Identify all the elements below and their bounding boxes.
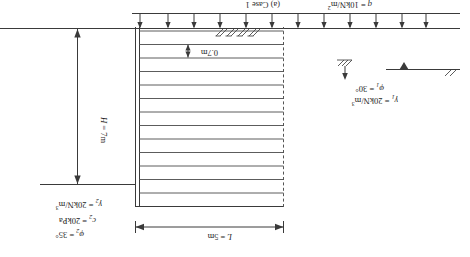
gamma2-subscript: 2	[96, 198, 99, 204]
figure-caption: (a) Case 1	[246, 0, 280, 10]
height-value: 7m	[99, 132, 109, 143]
c2-value: 20kPa	[59, 216, 80, 226]
figure-root: (a) Case 1 L = 5m H = 7m 0.7m q = 10kN/m…	[0, 0, 470, 257]
phi1-degree-symbol: °	[355, 84, 358, 94]
spacing-dimension-arrow-icon	[185, 45, 190, 58]
equals-sign-q: =	[361, 0, 366, 10]
equals-sign-p1: =	[369, 84, 374, 94]
load-arrow-icon	[217, 14, 222, 29]
height-symbol: H	[99, 117, 109, 123]
load-arrow-icon	[373, 14, 378, 29]
equals-sign-g1: =	[385, 96, 390, 106]
phi1-symbol: φ	[379, 84, 384, 94]
load-arrow-icon	[399, 14, 404, 29]
wall-crest-hatch-icon	[337, 60, 352, 80]
gamma2-value: 20kN/m	[59, 200, 87, 210]
load-arrow-icon	[295, 14, 300, 29]
ground-hatch-icon	[215, 29, 265, 37]
load-arrow-icon	[423, 14, 428, 29]
surcharge-symbol: q	[368, 0, 372, 10]
surcharge-value: 10kN/m	[331, 0, 359, 10]
soil-layer-2-cohesion-label: c2 = 20kPa	[59, 214, 96, 225]
height-dimension-label: H = 7m	[100, 117, 109, 143]
phi1-subscript: 1	[376, 82, 379, 88]
gamma2-exponent: 3	[56, 205, 59, 211]
length-value: 5m	[208, 232, 219, 242]
soil-layer-1-friction-label: φ1 = 30°	[355, 82, 384, 93]
spacing-value: 0.7m	[201, 48, 218, 58]
equals-sign-h: =	[99, 125, 109, 130]
c2-subscript: 2	[89, 214, 92, 220]
soil-layer-2-friction-label: φ2 = 35°	[55, 228, 84, 239]
soil-layer-1-unit-weight-label: γ1 = 20kN/m3	[352, 94, 398, 107]
layer2-level-hatch-icon	[410, 70, 460, 77]
gamma1-symbol: γ	[395, 96, 398, 106]
equals-sign-p2: =	[69, 230, 74, 240]
load-arrow-icon	[165, 14, 170, 29]
gamma1-value: 20kN/m	[355, 96, 383, 106]
load-arrow-icon	[269, 14, 274, 29]
gamma2-symbol: γ	[99, 200, 102, 210]
water-table-icon	[386, 62, 422, 70]
gamma1-exponent: 3	[352, 101, 355, 107]
phi2-subscript: 2	[76, 228, 79, 234]
c2-symbol: c	[92, 216, 96, 226]
length-dimension-label: L = 5m	[208, 233, 233, 242]
equals-sign: =	[221, 232, 226, 242]
surcharge-exponent: 2	[328, 5, 331, 11]
length-symbol: L	[227, 232, 232, 242]
phi1-value: 30	[359, 84, 368, 94]
equals-sign-c2: =	[82, 216, 87, 226]
load-arrow-icon	[137, 14, 142, 29]
load-arrow-icon-group	[137, 14, 428, 29]
load-arrow-icon	[347, 14, 352, 29]
phi2-symbol: φ	[79, 230, 84, 240]
height-dimension-arrow-icon	[74, 29, 80, 184]
load-arrow-icon	[321, 14, 326, 29]
load-arrow-icon	[191, 14, 196, 29]
load-arrow-icon	[243, 14, 248, 29]
surcharge-load-label: q = 10kN/m2	[328, 1, 372, 11]
phi2-degree-symbol: °	[55, 230, 58, 240]
spacing-dimension-label: 0.7m	[201, 49, 218, 58]
gamma1-subscript: 1	[392, 94, 395, 100]
equals-sign-g2: =	[89, 200, 94, 210]
soil-layer-2-unit-weight-label: γ2 = 20kN/m3	[56, 198, 102, 211]
phi2-value: 35	[59, 230, 68, 240]
